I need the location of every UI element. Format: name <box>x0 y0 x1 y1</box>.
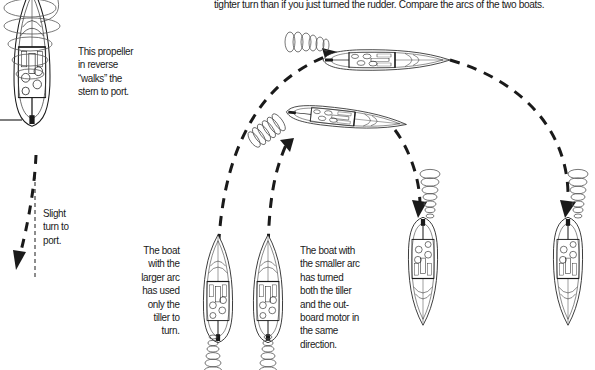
label-larger-arc: The boat with the larger arc has used on… <box>142 244 180 338</box>
reverse-path <box>20 155 36 255</box>
large-arc-path <box>218 55 330 262</box>
caption-top-line: tighter turn than if you just turned the… <box>214 0 544 11</box>
label-slight-turn: Slight turn to port. <box>43 207 69 247</box>
boat-large-arc-end <box>553 217 582 325</box>
arrow-head <box>13 250 26 270</box>
boat-large-arc-start <box>203 235 232 343</box>
prop-wash-small-mid <box>245 112 288 150</box>
label-prop-walk: This propeller in reverse “walks” the st… <box>78 45 133 99</box>
boat-small-arc-start <box>253 235 282 343</box>
boat-small-arc-end <box>408 217 437 325</box>
label-smaller-arc: The boat with the smaller arc has turned… <box>300 244 360 351</box>
boat-large-arc-mid <box>323 50 450 71</box>
boat-small-arc-mid <box>285 102 407 133</box>
prop-wash-large-mid <box>285 32 329 52</box>
